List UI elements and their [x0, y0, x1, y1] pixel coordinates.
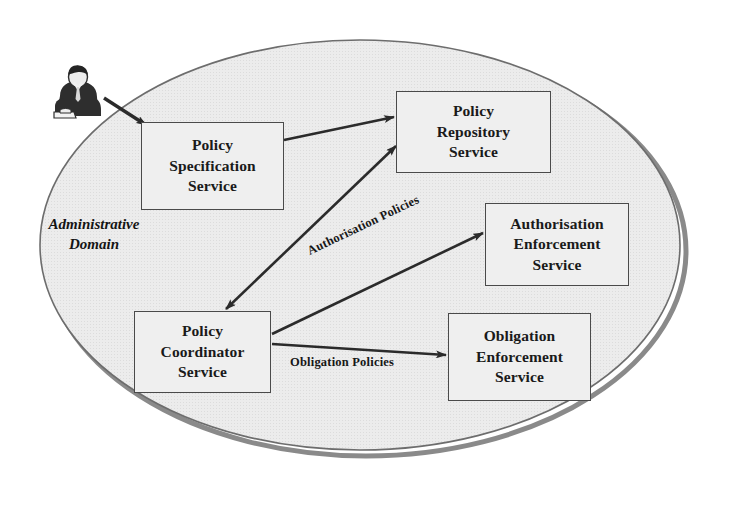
node-policy-coordinator-service[interactable]: Policy Coordinator Service — [134, 311, 271, 393]
node-obligation-enforcement-service-label: Obligation Enforcement Service — [476, 326, 563, 387]
person-at-desk-icon — [54, 65, 101, 118]
node-policy-specification-service-label: Policy Specification Service — [169, 135, 256, 196]
node-authorisation-enforcement-service[interactable]: Authorisation Enforcement Service — [485, 203, 629, 286]
administrative-domain-label: Administrative Domain — [28, 214, 160, 255]
node-policy-repository-service[interactable]: Policy Repository Service — [396, 91, 551, 173]
diagram-canvas: Administrative Domain Policy Specificati… — [0, 0, 738, 506]
edge-label-obligation-policies: Obligation Policies — [290, 355, 394, 370]
node-policy-repository-service-label: Policy Repository Service — [437, 101, 510, 162]
node-policy-specification-service[interactable]: Policy Specification Service — [141, 122, 284, 210]
node-authorisation-enforcement-service-label: Authorisation Enforcement Service — [510, 214, 603, 275]
node-policy-coordinator-service-label: Policy Coordinator Service — [161, 321, 245, 382]
node-obligation-enforcement-service[interactable]: Obligation Enforcement Service — [448, 313, 591, 401]
